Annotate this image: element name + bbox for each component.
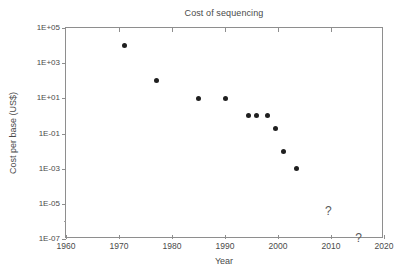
y-axis-tick-label: 1E-01 (39, 130, 60, 138)
plot-area: 1E-071E-051E-031E-011E+011E+031E+0519601… (65, 27, 383, 238)
data-point (265, 113, 270, 118)
y-axis-tick-label: 1E+03 (37, 59, 60, 67)
data-point (154, 78, 159, 83)
x-axis-tick (331, 235, 332, 239)
data-point (246, 113, 251, 118)
chart-annotation-question-mark: ? (325, 205, 332, 217)
x-axis-tick (172, 235, 173, 239)
y-axis-minor-tick (64, 221, 66, 222)
chart-figure: Cost of sequencing Cost per base (US$) 1… (0, 0, 410, 273)
y-axis-tick-label: 1E-03 (39, 165, 60, 173)
data-point (223, 96, 228, 101)
x-axis-tick-top (172, 28, 173, 32)
x-axis-tick (278, 235, 279, 239)
x-axis-tick (66, 235, 67, 239)
data-point (294, 166, 299, 171)
y-axis-tick (62, 169, 66, 170)
x-axis-tick-label: 1980 (163, 242, 182, 251)
y-axis-tick (62, 239, 66, 240)
y-axis-title-label: Cost per base (US$) (8, 91, 18, 173)
y-axis-title: Cost per base (US$) (6, 27, 20, 238)
data-point (122, 43, 127, 48)
y-axis-tick-label: 1E+01 (37, 94, 60, 102)
chart-annotation-question-mark: ? (355, 232, 362, 244)
chart-title: Cost of sequencing (65, 8, 383, 18)
data-point (254, 113, 259, 118)
y-axis-tick (62, 63, 66, 64)
y-axis-tick (62, 134, 66, 135)
y-axis-tick (62, 204, 66, 205)
x-axis-tick-label: 1960 (57, 242, 76, 251)
x-axis-tick (384, 235, 385, 239)
data-point (281, 149, 286, 154)
x-axis-tick-label: 2020 (375, 242, 394, 251)
x-axis-tick-label: 1990 (216, 242, 235, 251)
data-point (273, 126, 278, 131)
x-axis-tick-top (331, 28, 332, 32)
x-axis-tick-label: 2000 (269, 242, 288, 251)
data-point (196, 96, 201, 101)
x-axis-tick-label: 2010 (322, 242, 341, 251)
x-axis-tick (119, 235, 120, 239)
x-axis-tick (225, 235, 226, 239)
y-axis-tick (62, 28, 66, 29)
y-axis-tick-label: 1E+05 (37, 24, 60, 32)
y-axis-tick (62, 98, 66, 99)
x-axis-tick-top (225, 28, 226, 32)
x-axis-tick-top (119, 28, 120, 32)
x-axis-title: Year (65, 256, 383, 266)
x-axis-tick-label: 1970 (110, 242, 129, 251)
y-axis-tick-label: 1E-05 (39, 200, 60, 208)
x-axis-tick-top (278, 28, 279, 32)
